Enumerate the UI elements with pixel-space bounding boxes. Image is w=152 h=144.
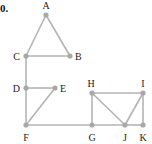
vertex-label-F: F: [23, 132, 29, 143]
vertex-A: [43, 12, 48, 17]
vertex-C: [23, 53, 28, 58]
vertex-label-A: A: [42, 0, 50, 11]
vertex-label-D: D: [13, 83, 20, 94]
edge-A-B: [46, 15, 70, 56]
vertex-label-E: E: [60, 83, 66, 94]
edge-E-F: [26, 88, 55, 125]
vertices: [23, 12, 145, 127]
vertex-label-B: B: [75, 51, 82, 62]
vertex-B: [67, 53, 72, 58]
edge-J-I: [125, 93, 143, 125]
vertex-label-J: J: [123, 132, 127, 143]
vertex-G: [89, 122, 94, 127]
vertex-I: [140, 90, 145, 95]
edge-H-J: [92, 93, 125, 125]
vertex-label-C: C: [13, 51, 20, 62]
edges: [26, 15, 143, 125]
vertex-F: [23, 122, 28, 127]
vertex-J: [122, 122, 127, 127]
problem-number: 0.: [0, 2, 9, 14]
vertex-label-H: H: [87, 78, 94, 89]
vertex-H: [89, 90, 94, 95]
graph-diagram: 0. ABCDEFGHIJK: [0, 0, 152, 144]
vertex-label-I: I: [141, 78, 144, 89]
vertex-label-K: K: [139, 132, 147, 143]
vertex-D: [23, 85, 28, 90]
vertex-label-G: G: [88, 132, 95, 143]
vertex-E: [52, 85, 57, 90]
vertex-K: [140, 122, 145, 127]
edge-A-C: [26, 15, 46, 56]
